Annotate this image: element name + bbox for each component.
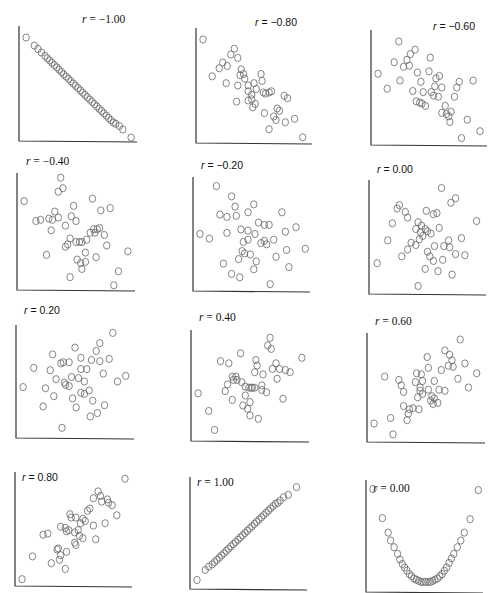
data-point bbox=[66, 359, 72, 366]
data-point bbox=[78, 366, 84, 373]
data-point bbox=[399, 253, 405, 260]
data-point bbox=[48, 560, 54, 567]
data-point bbox=[55, 214, 61, 221]
scatter-panel: r = −0.60 bbox=[371, 20, 487, 146]
scatter-panel: r = 0.20 bbox=[16, 304, 134, 439]
data-point bbox=[473, 217, 479, 224]
scatter-panel: r = 0.60 bbox=[367, 315, 485, 443]
data-point bbox=[423, 207, 429, 214]
data-point bbox=[441, 243, 447, 250]
data-point bbox=[128, 134, 134, 141]
data-point bbox=[224, 381, 230, 388]
data-point bbox=[467, 516, 473, 523]
data-point bbox=[62, 565, 68, 572]
data-point bbox=[87, 413, 93, 420]
data-point bbox=[253, 258, 259, 265]
r-value: = −0.60 bbox=[437, 20, 476, 32]
r-value: = −0.80 bbox=[259, 16, 298, 28]
data-point bbox=[462, 252, 468, 259]
data-point bbox=[404, 246, 410, 253]
data-point bbox=[458, 537, 464, 544]
data-point bbox=[100, 370, 106, 377]
data-point bbox=[391, 544, 397, 551]
data-point bbox=[68, 373, 74, 380]
data-point bbox=[454, 544, 460, 551]
data-point bbox=[414, 69, 420, 76]
data-point bbox=[385, 237, 391, 244]
data-point bbox=[213, 183, 219, 190]
correlation-label: r = 0.40 bbox=[199, 311, 236, 323]
data-point bbox=[111, 282, 117, 289]
data-point bbox=[430, 257, 436, 264]
data-point bbox=[400, 402, 406, 409]
data-point bbox=[424, 248, 430, 255]
data-point bbox=[436, 386, 442, 393]
data-point bbox=[259, 77, 265, 84]
data-point bbox=[224, 213, 230, 220]
data-point bbox=[228, 51, 234, 58]
data-point bbox=[475, 487, 481, 494]
data-point bbox=[73, 541, 79, 548]
correlation-scatterplot-grid: r = −1.00r = −0.80r = −0.60r = −0.40r = … bbox=[0, 0, 500, 593]
r-value: = 0.20 bbox=[28, 304, 61, 316]
data-point bbox=[62, 222, 68, 229]
data-point bbox=[279, 209, 285, 216]
data-point bbox=[94, 410, 100, 417]
data-point bbox=[73, 217, 79, 224]
data-point bbox=[51, 393, 57, 400]
data-point bbox=[43, 251, 49, 258]
data-point bbox=[431, 377, 437, 384]
data-point bbox=[252, 230, 258, 237]
data-point bbox=[238, 226, 244, 233]
data-point bbox=[81, 378, 87, 385]
data-point bbox=[461, 529, 467, 536]
data-point bbox=[242, 75, 248, 82]
data-point bbox=[259, 382, 265, 389]
scatter-panel: r = 0.40 bbox=[191, 311, 309, 442]
data-point bbox=[260, 371, 266, 378]
data-point bbox=[48, 227, 54, 234]
data-point bbox=[389, 220, 395, 227]
data-point bbox=[31, 364, 37, 371]
data-point bbox=[440, 256, 446, 263]
data-point bbox=[276, 365, 282, 372]
r-value: = −1.00 bbox=[86, 13, 125, 25]
data-point bbox=[427, 54, 433, 61]
axes bbox=[369, 180, 486, 295]
scatter-panel: r = −0.40 bbox=[17, 155, 135, 291]
data-point bbox=[391, 59, 397, 66]
data-point bbox=[237, 350, 243, 357]
axes bbox=[191, 330, 309, 442]
data-point bbox=[267, 334, 273, 341]
data-point bbox=[102, 520, 108, 527]
data-point bbox=[396, 38, 402, 45]
data-point bbox=[436, 224, 442, 231]
data-point bbox=[97, 358, 103, 365]
data-point bbox=[88, 356, 94, 363]
data-point bbox=[269, 365, 275, 372]
data-point bbox=[33, 217, 39, 224]
data-point bbox=[235, 54, 241, 61]
data-point bbox=[217, 358, 223, 365]
data-point bbox=[291, 115, 297, 122]
data-point bbox=[211, 426, 217, 433]
data-point bbox=[63, 548, 69, 555]
data-point bbox=[266, 126, 272, 133]
data-point bbox=[299, 354, 305, 361]
scatter-panel: r = 0.80 bbox=[15, 471, 132, 587]
correlation-label: r = 0.00 bbox=[377, 163, 413, 175]
data-point bbox=[84, 366, 90, 373]
data-point bbox=[400, 388, 406, 395]
data-point bbox=[235, 256, 241, 263]
data-point bbox=[233, 98, 239, 105]
correlation-label: r = −1.00 bbox=[82, 13, 126, 25]
data-point bbox=[93, 347, 99, 354]
data-point bbox=[82, 249, 88, 256]
axes bbox=[366, 480, 483, 593]
r-value: = 0.60 bbox=[379, 315, 412, 327]
data-point bbox=[75, 375, 81, 382]
data-point bbox=[206, 407, 212, 414]
data-point bbox=[228, 270, 234, 277]
scatter-panel: r = −0.80 bbox=[196, 16, 312, 144]
data-point bbox=[474, 370, 480, 377]
